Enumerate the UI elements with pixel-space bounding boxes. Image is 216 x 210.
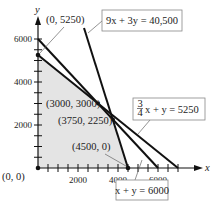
x-tick-label-2000: 2000 xyxy=(69,175,88,185)
y-tick-label-6000: 6000 xyxy=(14,34,33,44)
leader-0-5250 xyxy=(40,27,64,53)
leader-eq-three-quarter xyxy=(138,120,150,134)
leader-eq-9x-3y xyxy=(88,21,102,33)
x-axis-label: x xyxy=(204,162,210,173)
vertex-origin xyxy=(36,166,41,171)
feasible-region-chart: y x 6000 4000 2000 2000 4000 6000 (0, 52… xyxy=(0,0,216,210)
x-axis-arrow-icon xyxy=(194,165,203,171)
y-tick-label-2000: 2000 xyxy=(14,120,33,130)
y-axis-label: y xyxy=(34,4,40,15)
leader-eq-x-y-6000 xyxy=(135,160,142,180)
y-axis-arrow-icon xyxy=(35,16,41,25)
point-label-3750-2250: (3750, 2250) xyxy=(58,115,113,127)
equation-label-three-quarter: x + y = 5250 xyxy=(145,104,199,115)
y-tick-label-4000: 4000 xyxy=(14,77,33,87)
point-label-0-5250: (0, 5250) xyxy=(46,14,85,26)
point-label-3000-3000: (3000, 3000) xyxy=(46,98,101,110)
point-label-4500-0: (4500, 0) xyxy=(72,141,111,153)
vertex-0-5250 xyxy=(36,53,41,58)
equation-label-9x-3y: 9x + 3y = 40,500 xyxy=(106,15,178,26)
equation-fraction-denominator: 4 xyxy=(137,107,143,118)
equation-label-x-y-6000: x + y = 6000 xyxy=(115,185,169,196)
vertex-4500-0 xyxy=(126,166,131,171)
point-label-origin: (0, 0) xyxy=(2,171,25,183)
